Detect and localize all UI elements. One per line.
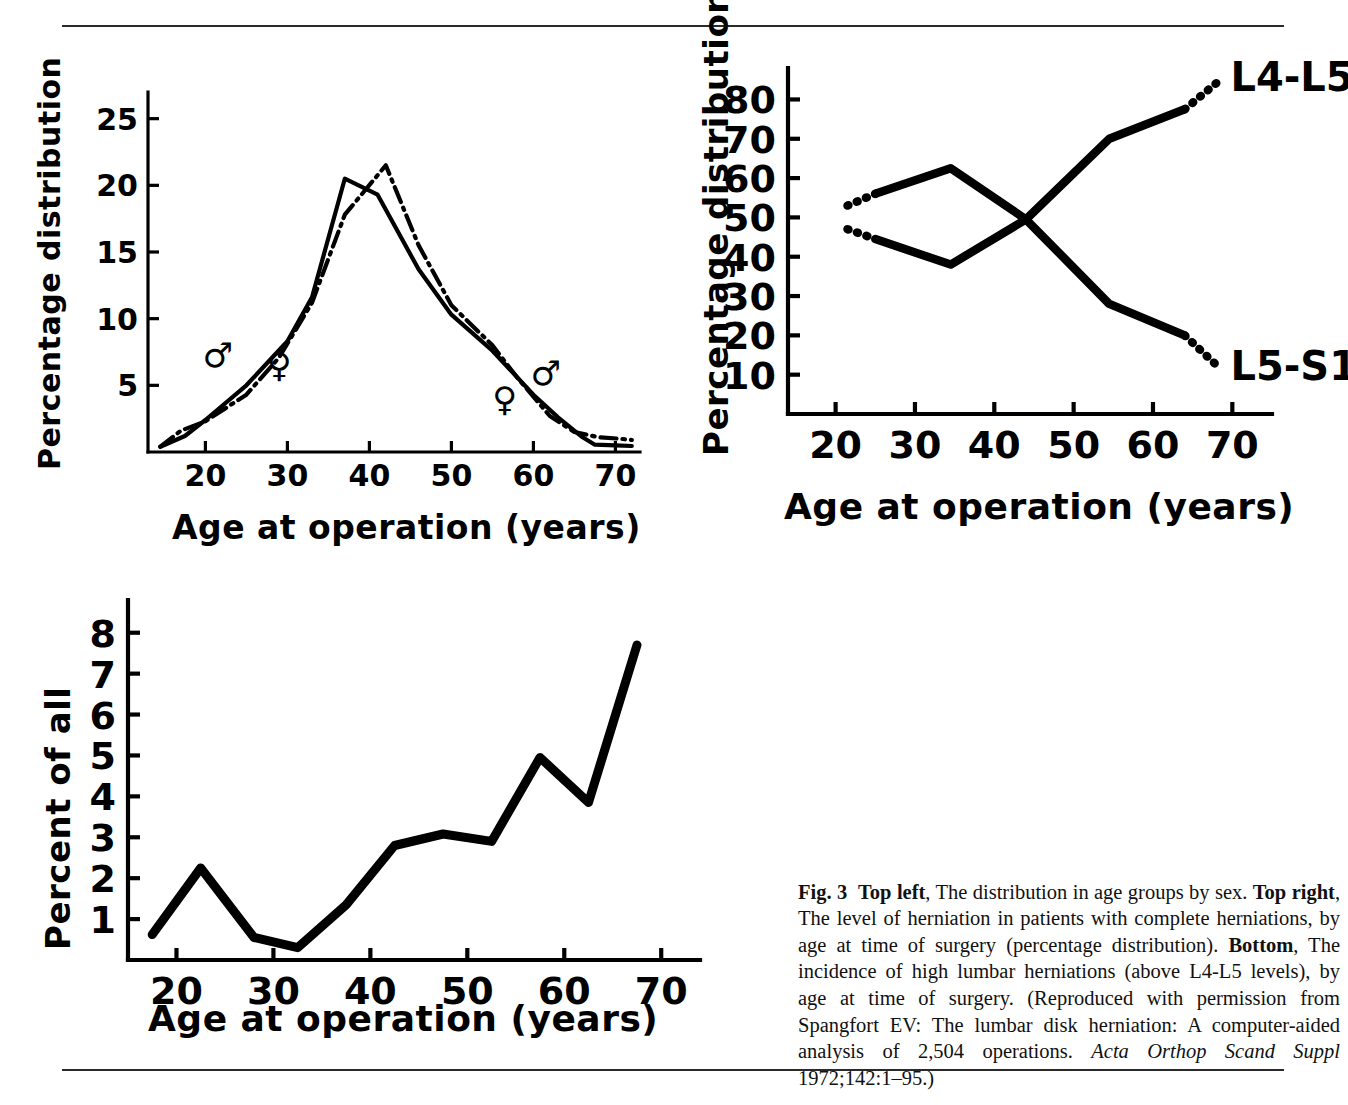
caption-figure-label: Fig. 3: [798, 881, 847, 903]
series-line-L4-L5: [875, 109, 1184, 264]
chart-top-left-x-axis-title: Age at operation (years): [172, 508, 641, 547]
chart-top-right-y-axis-title: Percentage distribution: [696, 0, 736, 456]
y-axis-tick-label: 5: [117, 368, 138, 403]
y-axis-tick-label: 25: [96, 102, 138, 137]
y-axis-tick-label: 20: [96, 168, 138, 203]
x-axis-tick-label: 30: [889, 423, 942, 467]
chart-top-right-canvas: 1020304050607080203040506070L4-L5L5-S1: [672, 36, 1348, 516]
series-lead-dotted-L5-S1: [848, 194, 876, 206]
y-axis-tick-label: 2: [90, 857, 116, 901]
x-axis-tick-label: 40: [968, 423, 1021, 467]
x-axis-tick-label: 70: [595, 458, 637, 493]
x-axis-tick-label: 40: [349, 458, 391, 493]
y-axis-tick-label: 5: [90, 734, 116, 778]
x-axis-tick-label: 50: [431, 458, 473, 493]
y-axis-tick-label: 15: [96, 235, 138, 270]
y-axis-tick-label: 8: [90, 612, 116, 656]
y-axis-tick-label: 3: [90, 816, 116, 860]
chart-top-right: 1020304050607080203040506070L4-L5L5-S1 P…: [672, 36, 1348, 516]
x-axis-tick-label: 20: [809, 423, 862, 467]
y-axis-tick-label: 1: [90, 898, 116, 942]
series-tail-dotted-L4-L5: [1185, 80, 1221, 110]
x-axis-tick-label: 20: [185, 458, 227, 493]
caption-top-left-text: , The distribution in age groups by sex.: [925, 881, 1252, 903]
series-line-Female: [160, 165, 632, 446]
top-page-rule: [62, 25, 1284, 27]
caption-top-left-label: Top left: [858, 881, 925, 903]
caption-top-right-label: Top right: [1253, 881, 1335, 903]
y-axis-tick-label: 4: [90, 775, 116, 819]
x-axis-tick-label: 60: [513, 458, 555, 493]
y-axis-tick-label: 7: [90, 653, 116, 697]
x-axis-tick-label: 60: [1127, 423, 1180, 467]
series-tail-dotted-L5-S1: [1185, 335, 1221, 368]
chart-top-left-canvas: 510152025203040506070♂♀♂♀: [0, 40, 660, 520]
caption-citation-tail: 1972;142:1–95.): [798, 1067, 934, 1089]
y-axis-tick-label: 10: [96, 302, 138, 337]
annotation-female-symbol-left: ♀: [267, 345, 292, 385]
chart-bottom-y-axis-title: Percent of all: [38, 687, 78, 951]
chart-top-right-x-axis-title: Age at operation (years): [784, 486, 1294, 527]
series-end-label-L5-S1: L5-S1: [1230, 343, 1348, 389]
caption-bottom-label: Bottom: [1228, 934, 1293, 956]
y-axis-tick-label: 6: [90, 694, 116, 738]
annotation-male-symbol-left: ♂: [202, 335, 232, 375]
chart-top-left: 510152025203040506070♂♀♂♀ Percentage dis…: [0, 40, 660, 520]
caption-journal-name: Acta Orthop Scand Suppl: [1091, 1040, 1340, 1062]
series-line-High lumbar herniations (above L4-L5): [152, 645, 637, 948]
series-end-label-L4-L5: L4-L5: [1230, 54, 1348, 100]
annotation-female-symbol-right: ♀: [492, 379, 517, 419]
chart-top-left-y-axis-title: Percentage distribution: [32, 57, 67, 470]
chart-bottom: 12345678203040506070 Percent of all Age …: [0, 580, 740, 1060]
figure-page: 510152025203040506070♂♀♂♀ Percentage dis…: [0, 0, 1348, 1105]
chart-bottom-x-axis-title: Age at operation (years): [148, 998, 658, 1039]
annotation-male-symbol-right: ♂: [530, 353, 560, 393]
series-lead-dotted-L4-L5: [848, 229, 876, 239]
chart-bottom-canvas: 12345678203040506070: [0, 580, 740, 1060]
figure-caption: Fig. 3 Top left, The distribution in age…: [798, 879, 1340, 1092]
x-axis-tick-label: 70: [1206, 423, 1259, 467]
x-axis-tick-label: 50: [1047, 423, 1100, 467]
x-axis-tick-label: 30: [267, 458, 309, 493]
